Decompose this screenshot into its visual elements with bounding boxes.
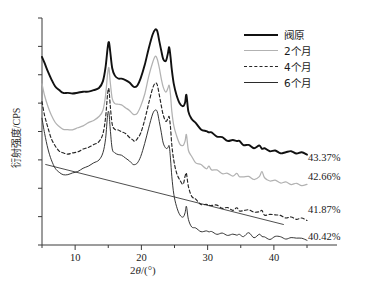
legend-item-2[interactable]: 4个月 (244, 58, 340, 74)
y-axis-label: 衍射强度/CPS (8, 0, 24, 88)
xrd-chart: 10203040 衍射强度/CPS 2θ/(°) 阀原 2个月 4个月 6个月 … (0, 0, 371, 299)
svg-text:30: 30 (202, 252, 213, 263)
legend-label-3: 6个月 (284, 75, 311, 90)
legend-line-icon-2months (244, 45, 278, 55)
svg-text:10: 10 (70, 252, 81, 263)
annotation-crystallinity-original: 43.37% (308, 152, 340, 163)
background-baseline (45, 164, 284, 224)
x-tick-labels: 10203040 (70, 252, 279, 263)
legend-label-0: 阀原 (284, 27, 304, 42)
svg-text:40: 40 (269, 252, 280, 263)
annotation-crystallinity-6months: 40.42% (308, 231, 340, 242)
annotation-crystallinity-2months: 42.66% (308, 171, 340, 182)
legend-item-1[interactable]: 2个月 (244, 42, 340, 58)
svg-text:20: 20 (136, 252, 147, 263)
legend-item-0[interactable]: 阀原 (244, 26, 340, 42)
legend: 阀原 2个月 4个月 6个月 (244, 26, 340, 90)
legend-line-icon-4months (244, 61, 278, 71)
legend-line-icon-original (244, 29, 278, 39)
annotation-crystallinity-4months: 41.87% (308, 204, 340, 215)
legend-label-2: 4个月 (284, 59, 311, 74)
legend-label-1: 2个月 (284, 43, 311, 58)
y-axis-label-text: 衍射强度/CPS (8, 88, 23, 188)
legend-item-3[interactable]: 6个月 (244, 74, 340, 90)
legend-line-icon-6months (244, 77, 278, 87)
x-axis-label-suffix: /(°) (141, 264, 156, 276)
x-axis-label: 2θ/(°) (130, 264, 156, 276)
